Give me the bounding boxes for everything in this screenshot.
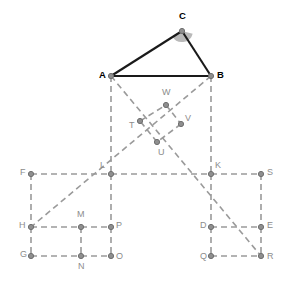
vertex-points-layer — [28, 28, 263, 258]
vertex-label-a: A — [99, 70, 106, 79]
vertex-label-v: V — [185, 114, 191, 123]
side-AC — [111, 31, 182, 76]
vertex-point-r[interactable] — [258, 253, 263, 258]
vertex-point-b[interactable] — [208, 73, 213, 78]
vertex-label-p: P — [116, 221, 122, 230]
vertex-point-k[interactable] — [208, 171, 213, 176]
vertex-point-n[interactable] — [78, 253, 83, 258]
vertex-point-v[interactable] — [178, 121, 183, 126]
vertex-label-u: U — [158, 148, 165, 157]
square-T-W — [140, 105, 166, 121]
geometry-canvas — [0, 0, 287, 282]
vertex-label-c: C — [179, 11, 186, 20]
geometry-figure: CABWTVUFLKSHMPDEGNOQR — [0, 0, 287, 282]
vertex-point-e[interactable] — [258, 224, 263, 229]
square-V-U — [157, 124, 181, 142]
vertex-label-b: B — [217, 70, 224, 79]
vertex-point-a[interactable] — [108, 73, 113, 78]
vertex-label-k: K — [215, 161, 221, 170]
vertex-label-f: F — [20, 168, 26, 177]
diagonal-A-R — [111, 76, 261, 256]
vertex-label-s: S — [267, 168, 273, 177]
vertex-label-q: Q — [200, 252, 207, 261]
vertex-point-m[interactable] — [78, 224, 83, 229]
vertex-label-t: T — [129, 121, 135, 130]
dashed-segments-layer — [31, 76, 261, 256]
vertex-label-r: R — [267, 252, 274, 261]
vertex-label-d: D — [200, 221, 207, 230]
vertex-label-g: G — [20, 250, 27, 259]
vertex-point-c[interactable] — [179, 28, 184, 33]
side-CB — [182, 31, 211, 76]
vertex-point-l[interactable] — [108, 171, 113, 176]
vertex-point-o[interactable] — [108, 253, 113, 258]
diagonal-B-H — [31, 76, 211, 227]
vertex-point-t[interactable] — [137, 118, 142, 123]
vertex-label-o: O — [116, 252, 123, 261]
vertex-point-h[interactable] — [28, 224, 33, 229]
vertex-label-w: W — [162, 88, 171, 97]
vertex-point-g[interactable] — [28, 253, 33, 258]
vertex-label-n: N — [78, 262, 85, 271]
vertex-label-l: L — [100, 161, 105, 170]
square-W-V — [166, 105, 181, 124]
vertex-point-w[interactable] — [163, 102, 168, 107]
vertex-label-m: M — [77, 210, 85, 219]
vertex-point-u[interactable] — [154, 139, 159, 144]
vertex-point-s[interactable] — [258, 171, 263, 176]
vertex-point-f[interactable] — [28, 171, 33, 176]
vertex-label-e: E — [267, 221, 273, 230]
vertex-point-p[interactable] — [108, 224, 113, 229]
vertex-point-d[interactable] — [208, 224, 213, 229]
vertex-label-h: H — [19, 221, 26, 230]
solid-segments-layer — [111, 31, 211, 76]
vertex-point-q[interactable] — [208, 253, 213, 258]
